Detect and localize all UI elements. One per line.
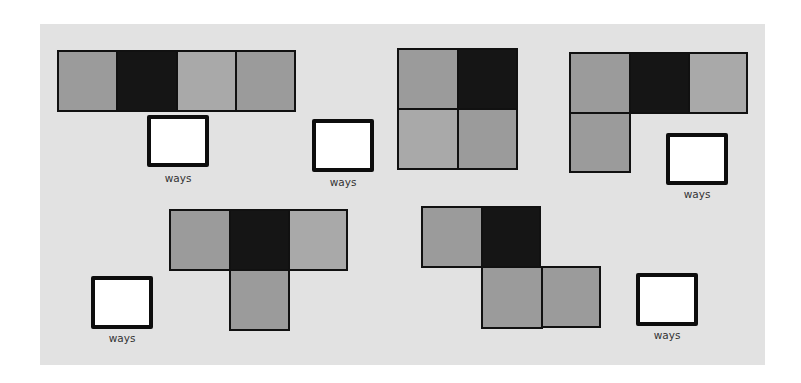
- answer-input-box[interactable]: [636, 273, 698, 326]
- square-cell-light: [688, 52, 748, 114]
- ways-label: ways: [637, 329, 697, 341]
- square-cell-dark: [481, 206, 541, 268]
- answer-input-box[interactable]: [91, 276, 153, 329]
- square-cell-medium: [235, 50, 296, 112]
- answer-input-box[interactable]: [147, 115, 209, 167]
- square-cell-medium: [229, 269, 290, 331]
- square-cell-medium: [57, 50, 118, 112]
- square-cell-light: [176, 50, 237, 112]
- ways-label: ways: [148, 172, 208, 184]
- square-cell-light: [288, 209, 348, 271]
- answer-input-box[interactable]: [666, 133, 728, 185]
- square-cell-medium: [421, 206, 483, 268]
- square-cell-dark: [629, 52, 690, 114]
- square-cell-medium: [569, 112, 631, 173]
- square-cell-light: [397, 108, 459, 170]
- ways-label: ways: [92, 332, 152, 344]
- answer-input-box[interactable]: [312, 119, 374, 172]
- square-cell-medium: [169, 209, 231, 271]
- square-cell-dark: [457, 48, 518, 110]
- square-cell-medium: [541, 266, 601, 328]
- square-cell-dark: [229, 209, 290, 271]
- square-cell-dark: [116, 50, 178, 112]
- ways-label: ways: [313, 176, 373, 188]
- square-cell-medium: [397, 48, 459, 110]
- square-cell-medium: [569, 52, 631, 114]
- square-cell-medium: [481, 266, 543, 329]
- ways-label: ways: [667, 188, 727, 200]
- square-cell-medium: [457, 108, 518, 170]
